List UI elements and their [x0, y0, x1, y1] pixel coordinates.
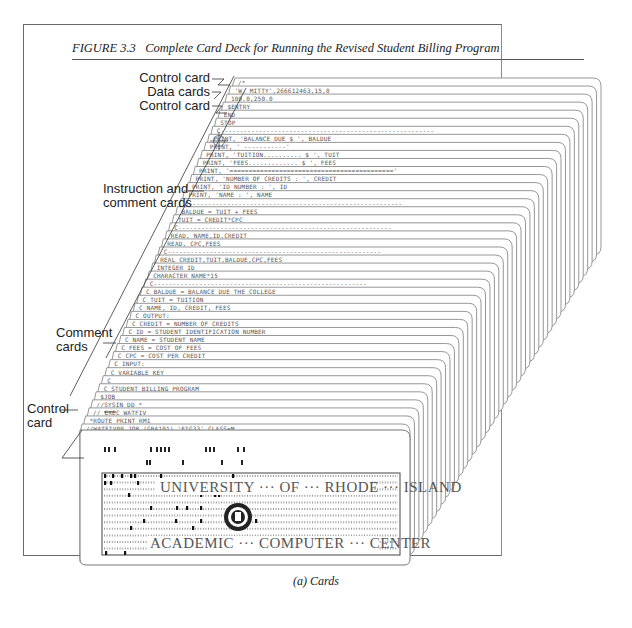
front-punch-card: UNIVERSITY ··· OF ··· RHODE ··· ISLANDAC…	[80, 430, 462, 565]
card-text: C---------------------------------------…	[164, 248, 381, 255]
card-text: PRINT, 'BALANCE DUE $ ', BALDUE	[213, 135, 331, 142]
card-text: C NAME, ID, CREDIT, FEES	[139, 304, 231, 311]
card-text: PRINT, '================================…	[199, 167, 397, 174]
card-text: C CPC = COST PER CREDIT	[118, 352, 206, 359]
university-name-text: UNIVERSITY ··· OF ··· RHODE ··· ISLAND	[160, 479, 462, 495]
card-text: PRINT, 'TUITION.......... $ ', TUIT	[206, 151, 340, 158]
card-text: PRINT, 'NAME : ', NAME	[189, 191, 273, 198]
label-control-card-top: Control card	[139, 70, 210, 85]
card-text: C---------------------------------------…	[217, 127, 434, 134]
card-deck-illustration: /*'W. MITTY',266612463,15,0100.0,250.0$E…	[0, 0, 632, 628]
card-text: REAL CREDIT,TUIT,BALDUE,CPC,FEES	[160, 256, 282, 263]
card-text: *ROUTE PRINT RM1	[90, 417, 151, 424]
card-text: C	[107, 377, 111, 384]
figure-caption: (a) Cards	[0, 574, 632, 589]
card-text: CHARACTER NAME*15	[153, 272, 218, 279]
card-text: READ, CPC,FEES	[167, 240, 221, 247]
card-text: C BALDUE = BALANCE DUE THE COLLEGE	[146, 288, 276, 295]
card-text: $ENTRY	[227, 103, 250, 110]
computer-center-text: ACADEMIC ··· COMPUTER ··· CENTER	[150, 535, 431, 551]
card-text: PRINT, 'NUMBER OF CREDITS : ', CREDIT	[196, 175, 337, 182]
label-control-card-bottom: Controlcard	[27, 401, 69, 430]
card-text: C---------------------------------------…	[185, 200, 402, 207]
card-text: BALDUE = TUIT + FEES	[181, 208, 257, 215]
card-text: C FEES = COST OF FEES	[121, 344, 201, 351]
card-text: PRINT, ' -----------'	[210, 143, 290, 150]
card-text: TUIT = CREDIT*CPC	[178, 216, 243, 223]
card-text: C NAME = STUDENT NAME	[125, 336, 205, 343]
card-text: 'W. MITTY',266612463,15,0	[234, 87, 329, 94]
card-text: C---------------------------------------…	[174, 224, 391, 231]
card-text: C TUIT = TUITION	[143, 296, 204, 303]
card-text: READ, NAME,ID,CREDIT	[171, 232, 247, 239]
label-control-card-mid: Control card	[139, 98, 210, 113]
card-text: 100.0,250.0	[231, 95, 273, 102]
card-text: C OUTPUT:	[135, 312, 169, 319]
card-text: C---------------------------------------…	[150, 280, 367, 287]
card-text: //SYSIN DD *	[97, 401, 143, 408]
card-text: $JOB	[100, 393, 115, 400]
card-text: PRINT, 'ID NUMBER : ', ID	[192, 183, 287, 190]
card-text: C VARIABLE KEY	[111, 369, 165, 376]
card-text: INTEGER ID	[157, 264, 195, 271]
card-text: C CREDIT = NUMBER OF CREDITS	[132, 320, 239, 327]
card-text: // EXEC WATFIV	[93, 409, 147, 416]
card-text: C INPUT:	[114, 360, 145, 367]
card-text: C ID = STUDENT IDENTIFICATION NUMBER	[128, 328, 265, 335]
card-text: C STUDENT BILLING PROGRAM	[104, 385, 199, 392]
card-text: PRINT, 'FEES............. $ ', FEES	[203, 159, 337, 166]
card-text: /*	[238, 79, 246, 86]
label-instruction-comment-cards: Instruction andcomment cards	[103, 181, 192, 210]
label-data-cards: Data cards	[147, 84, 210, 99]
